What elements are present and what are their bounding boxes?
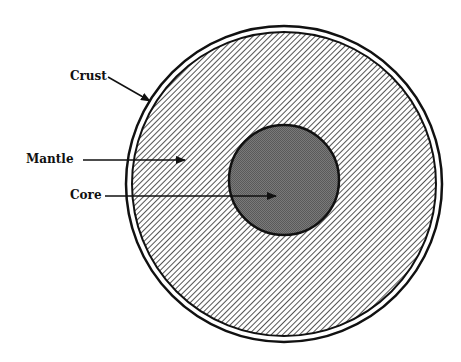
earth-cross-section: [0, 0, 461, 362]
crust-arrow: [108, 77, 150, 101]
core-layer: [229, 125, 339, 235]
core-label: Core: [70, 188, 102, 202]
earth-layers-diagram: Crust Mantle Core: [0, 0, 461, 362]
crust-label: Crust: [70, 69, 107, 83]
mantle-label: Mantle: [26, 152, 74, 166]
